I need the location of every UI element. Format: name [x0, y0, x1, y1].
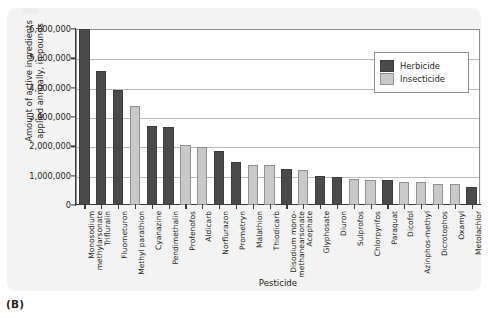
- x-axis-tick-label-line: Dicrotophos: [441, 211, 449, 256]
- x-axis-tick-label-line: Sulprofos: [357, 211, 365, 246]
- bar-insecticide: [399, 182, 409, 205]
- x-axis-tick-label-line: Fluometuron: [121, 211, 129, 259]
- x-axis-tick-label: Malathion: [256, 211, 264, 248]
- y-axis-title-line2: applied annually, in pounds: [35, 23, 45, 139]
- bar-herbicide: [147, 126, 157, 205]
- x-axis-tick-mark: [202, 204, 203, 209]
- bar-insecticide: [180, 145, 190, 205]
- x-axis-tick-mark: [286, 204, 287, 209]
- figure-panel: 6,000,0005,000,0004,000,0003,000,0002,00…: [7, 8, 481, 291]
- x-axis-tick-label: Acephate: [306, 211, 314, 246]
- x-axis-title: Pesticide: [76, 278, 480, 288]
- x-axis-tick-mark: [270, 204, 271, 209]
- x-axis-tick-label-line: Profenofos: [189, 211, 197, 251]
- x-axis-tick-mark: [387, 204, 388, 209]
- x-axis-tick-label-line: Norflurazon: [222, 211, 230, 255]
- x-axis-tick-mark: [236, 204, 237, 209]
- legend-swatch-herbicide: [380, 60, 394, 72]
- x-axis-tick-mark: [152, 204, 153, 209]
- x-axis-tick-label: Oxamyl: [458, 211, 466, 240]
- bar-insecticide: [264, 165, 274, 205]
- x-axis-tick-label: Cyanazine: [155, 211, 163, 250]
- x-axis-tick-mark: [135, 204, 136, 209]
- x-axis-tick-mark: [169, 204, 170, 209]
- x-axis-tick-mark: [421, 204, 422, 209]
- x-axis-tick-mark: [472, 204, 473, 209]
- x-axis-tick-label-line: Azinphos-methyl: [424, 211, 432, 274]
- x-axis-tick-label-line: Prometryn: [239, 211, 247, 250]
- chart-legend: HerbicideInsecticide: [374, 52, 469, 93]
- legend-label-insecticide: Insecticide: [400, 74, 445, 84]
- y-axis-title-line1: Amount of active ingredients: [24, 20, 34, 142]
- x-axis-tick-label: Pendimethalin: [172, 211, 180, 265]
- x-axis-tick-mark: [101, 204, 102, 209]
- x-axis-tick-label: Glyphosate: [323, 211, 331, 254]
- bar-herbicide: [163, 127, 173, 205]
- x-axis-tick-mark: [185, 204, 186, 209]
- x-axis-tick-label-line: Paraquat: [391, 211, 399, 245]
- bar-insecticide: [197, 147, 207, 205]
- x-axis-tick-label: Diuron: [340, 211, 348, 236]
- x-axis-tick-mark: [354, 204, 355, 209]
- x-axis-tick-label: Prometryn: [239, 211, 247, 250]
- x-axis-tick-label: Monosodiummethylarsonate: [88, 211, 104, 270]
- x-axis-tick-label-line: Methyl parathion: [138, 211, 146, 275]
- x-axis-tick-mark: [404, 204, 405, 209]
- x-axis-tick-label-line: Diuron: [340, 211, 348, 236]
- x-axis-ticks: [76, 204, 480, 210]
- bar-insecticide: [130, 106, 140, 205]
- bar-insecticide: [450, 184, 460, 205]
- x-axis-tick-label-line: Metolachlor: [475, 211, 483, 255]
- x-axis-tick-label: Profenofos: [189, 211, 197, 251]
- bar-herbicide: [214, 151, 224, 205]
- legend-item-insecticide: Insecticide: [380, 73, 462, 85]
- bar-herbicide: [96, 71, 106, 205]
- x-axis-tick-label: Sulprofos: [357, 211, 365, 246]
- x-axis-tick-label-line: Pendimethalin: [172, 211, 180, 265]
- x-axis-tick-label-line: Aldicarb: [205, 211, 213, 242]
- x-axis-tick-label: Dicrotophos: [441, 211, 449, 256]
- bar-insecticide: [365, 180, 375, 205]
- bar-insecticide: [248, 165, 258, 205]
- x-axis-tick-label: Metolachlor: [475, 211, 483, 255]
- x-axis-tick-label-line: Oxamyl: [458, 211, 466, 240]
- bar-herbicide: [79, 29, 89, 205]
- x-axis-tick-label: Fluometuron: [121, 211, 129, 259]
- x-axis-tick-label: Aldicarb: [205, 211, 213, 242]
- x-axis-tick-mark: [320, 204, 321, 209]
- x-axis-tick-mark: [118, 204, 119, 209]
- bar-herbicide: [113, 90, 123, 205]
- legend-item-herbicide: Herbicide: [380, 60, 462, 72]
- x-axis-tick-mark: [438, 204, 439, 209]
- x-axis-tick-mark: [219, 204, 220, 209]
- bar-herbicide: [382, 180, 392, 205]
- x-axis-tick-label-line: Chlorpyrifos: [374, 211, 382, 256]
- legend-label-herbicide: Herbicide: [400, 61, 440, 71]
- x-axis-tick-label: Azinphos-methyl: [424, 211, 432, 274]
- x-axis-tick-mark: [337, 204, 338, 209]
- x-axis-tick-label-line: Cyanazine: [155, 211, 163, 250]
- bar-herbicide: [315, 176, 325, 205]
- x-axis-tick-label-line: Glyphosate: [323, 211, 331, 254]
- x-axis-tick-label: Methyl parathion: [138, 211, 146, 275]
- x-axis-tick-label-line: Acephate: [306, 211, 314, 246]
- bar-herbicide: [466, 187, 476, 205]
- bar-insecticide: [433, 184, 443, 205]
- bar-herbicide: [281, 169, 291, 205]
- y-axis-tick-label: 1,000,000: [29, 171, 71, 181]
- x-axis-tick-label: Chlorpyrifos: [374, 211, 382, 256]
- y-axis-title: Amount of active ingredients applied ann…: [24, 5, 46, 157]
- x-axis-tick-mark: [455, 204, 456, 209]
- bar-insecticide: [416, 182, 426, 205]
- x-axis-tick-label: Thiodicarb: [273, 211, 281, 250]
- x-axis-tick-mark: [303, 204, 304, 209]
- bar-insecticide: [298, 170, 308, 205]
- x-axis-tick-label-line: Trifluralin: [104, 211, 112, 246]
- x-axis-tick-mark: [253, 204, 254, 209]
- x-axis-tick-label: Norflurazon: [222, 211, 230, 255]
- x-axis-tick-label: Disodium mono-methanearsonate: [290, 211, 306, 278]
- x-axis-tick-mark: [371, 204, 372, 209]
- x-axis-tick-label-line: Dicofol: [407, 211, 415, 237]
- x-axis-tick-label: Trifluralin: [104, 211, 112, 246]
- x-axis-tick-label-line: Thiodicarb: [273, 211, 281, 250]
